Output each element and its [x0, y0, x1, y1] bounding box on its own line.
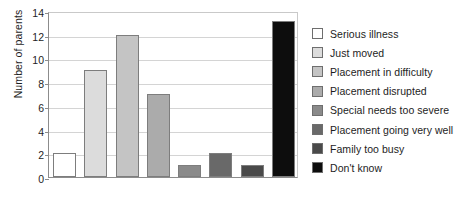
y-axis-tick-label: 4 — [38, 126, 44, 138]
legend-label: Placement in difficulty — [330, 66, 433, 78]
bar — [241, 165, 264, 177]
bar — [272, 21, 295, 178]
bar — [84, 70, 107, 177]
y-axis-tickmark — [45, 179, 49, 180]
legend-swatch — [312, 143, 323, 154]
legend-item: Special needs too severe — [312, 101, 472, 120]
y-axis-tick-label: 2 — [38, 149, 44, 161]
legend-label: Placement disrupted — [330, 85, 427, 97]
y-axis-tick-label: 0 — [38, 173, 44, 185]
legend-swatch — [312, 124, 323, 135]
legend-item: Family too busy — [312, 139, 472, 158]
legend-label: Serious illness — [330, 28, 398, 40]
bar-chart-figure: Number of parents 02468101214 Serious il… — [0, 0, 475, 202]
legend-item: Don't know — [312, 158, 472, 177]
legend-label: Don't know — [330, 162, 382, 174]
legend: Serious illnessJust movedPlacement in di… — [312, 24, 472, 178]
bar — [147, 94, 170, 177]
legend-label: Just moved — [330, 47, 384, 59]
plot-area: 02468101214 — [48, 12, 298, 178]
bars-group — [49, 13, 297, 177]
y-axis-title: Number of parents — [12, 0, 24, 114]
legend-label: Placement going very well — [330, 124, 453, 136]
legend-label: Family too busy — [330, 143, 404, 155]
legend-item: Serious illness — [312, 24, 472, 43]
bar — [178, 165, 201, 177]
legend-item: Placement disrupted — [312, 82, 472, 101]
legend-item: Placement in difficulty — [312, 62, 472, 81]
legend-swatch — [312, 86, 323, 97]
legend-item: Placement going very well — [312, 120, 472, 139]
y-axis-tick-label: 14 — [32, 7, 44, 19]
legend-item: Just moved — [312, 43, 472, 62]
legend-swatch — [312, 66, 323, 77]
y-axis-tick-label: 6 — [38, 102, 44, 114]
y-axis-tick-label: 10 — [32, 54, 44, 66]
legend-swatch — [312, 28, 323, 39]
legend-swatch — [312, 105, 323, 116]
bar — [53, 153, 76, 177]
bar — [209, 153, 232, 177]
legend-swatch — [312, 47, 323, 58]
legend-swatch — [312, 162, 323, 173]
bar — [116, 35, 139, 177]
legend-label: Special needs too severe — [330, 104, 449, 116]
y-axis-tick-label: 8 — [38, 78, 44, 90]
y-axis-tick-label: 12 — [32, 31, 44, 43]
